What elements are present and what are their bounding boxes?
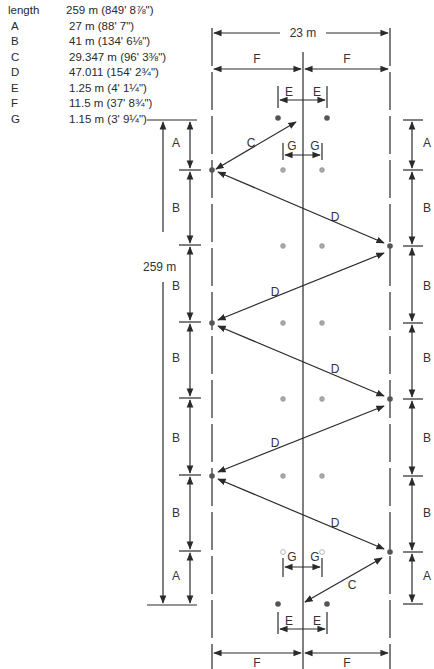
svg-text:E: E	[285, 85, 293, 99]
svg-text:G: G	[310, 550, 319, 564]
svg-text:E: E	[285, 614, 293, 628]
svg-text:E: E	[313, 614, 321, 628]
field-layout-diagram: 23 m F F E E G G C D D D D D G G C E E F…	[0, 0, 434, 669]
svg-text:D: D	[271, 436, 280, 450]
length-label: 259 m	[143, 260, 176, 274]
svg-text:B: B	[423, 351, 431, 365]
svg-text:B: B	[423, 431, 431, 445]
svg-text:C: C	[348, 578, 357, 592]
svg-text:A: A	[172, 136, 180, 150]
svg-text:B: B	[172, 431, 180, 445]
svg-text:D: D	[331, 516, 340, 530]
c-dim-bottom	[305, 558, 382, 602]
svg-text:A: A	[172, 569, 180, 583]
svg-text:G: G	[287, 550, 296, 564]
svg-text:D: D	[331, 210, 340, 224]
svg-text:B: B	[423, 279, 431, 293]
svg-text:B: B	[172, 351, 180, 365]
svg-text:F: F	[343, 52, 350, 66]
svg-text:B: B	[423, 201, 431, 215]
c-dim-top	[216, 122, 296, 169]
svg-text:B: B	[172, 506, 180, 520]
svg-text:G: G	[310, 139, 319, 153]
svg-text:G: G	[287, 139, 296, 153]
svg-text:F: F	[343, 656, 350, 669]
svg-text:B: B	[423, 506, 431, 520]
svg-text:B: B	[172, 201, 180, 215]
svg-text:D: D	[271, 285, 280, 299]
svg-text:A: A	[423, 569, 431, 583]
svg-text:B: B	[172, 279, 180, 293]
svg-text:A: A	[423, 136, 431, 150]
svg-text:F: F	[253, 52, 260, 66]
svg-text:E: E	[313, 85, 321, 99]
svg-text:C: C	[247, 136, 256, 150]
width-label: 23 m	[290, 26, 317, 40]
svg-text:F: F	[253, 656, 260, 669]
svg-text:D: D	[331, 362, 340, 376]
